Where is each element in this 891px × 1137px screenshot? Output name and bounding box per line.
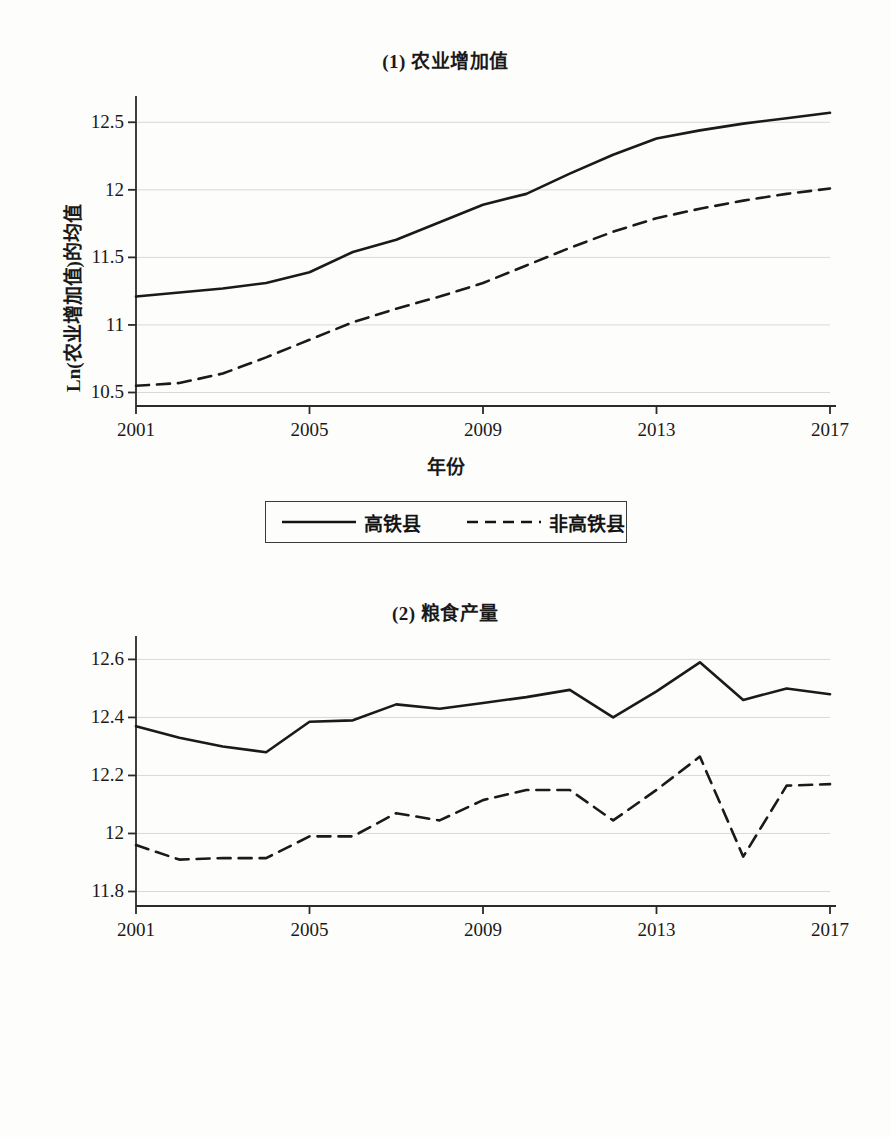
svg-text:12.6: 12.6 — [91, 648, 124, 669]
legend-dashed-line-icon — [465, 515, 543, 529]
panel-2-title: (2) 粮食产量 — [0, 598, 891, 625]
legend-entry-solid: 高铁县 — [280, 502, 421, 542]
panel-2-plot-area: 11.81212.212.412.620012005200920132017 — [0, 628, 891, 938]
panel-1-y-axis-label: Ln(农业增加值)的均值 — [58, 204, 85, 392]
figure-page: (1) 农业增加值 10.51111.51212.520012005200920… — [0, 0, 891, 1137]
svg-text:2009: 2009 — [464, 419, 502, 440]
svg-text:2001: 2001 — [117, 919, 155, 938]
panel-1-plot-area: 10.51111.51212.520012005200920132017 — [0, 80, 891, 440]
svg-text:2005: 2005 — [291, 919, 329, 938]
svg-text:11.8: 11.8 — [91, 880, 124, 901]
panel-1-svg: 10.51111.51212.520012005200920132017 — [0, 80, 891, 440]
legend-entry-dashed: 非高铁县 — [465, 502, 625, 542]
svg-text:12.2: 12.2 — [91, 764, 124, 785]
svg-text:12.5: 12.5 — [91, 111, 124, 132]
legend-solid-label: 高铁县 — [364, 509, 421, 536]
panel-1-legend: 高铁县 非高铁县 — [265, 501, 627, 543]
svg-text:2017: 2017 — [811, 419, 849, 440]
svg-text:2009: 2009 — [464, 919, 502, 938]
svg-text:2005: 2005 — [291, 419, 329, 440]
chart-panel-1: (1) 农业增加值 10.51111.51212.520012005200920… — [0, 0, 891, 568]
panel-1-title: (1) 农业增加值 — [0, 46, 891, 73]
svg-text:10.5: 10.5 — [91, 381, 124, 402]
svg-text:2013: 2013 — [638, 419, 676, 440]
panel-2-svg: 11.81212.212.412.620012005200920132017 — [0, 628, 891, 938]
svg-text:12: 12 — [105, 822, 124, 843]
svg-text:2017: 2017 — [811, 919, 849, 938]
chart-panel-2: (2) 粮食产量 11.81212.212.412.62001200520092… — [0, 568, 891, 1137]
svg-text:2013: 2013 — [638, 919, 676, 938]
legend-dashed-label: 非高铁县 — [549, 509, 625, 536]
svg-text:2001: 2001 — [117, 419, 155, 440]
legend-solid-line-icon — [280, 515, 358, 529]
svg-text:11.5: 11.5 — [91, 246, 124, 267]
svg-text:12: 12 — [105, 179, 124, 200]
panel-1-x-axis-label: 年份 — [0, 452, 891, 479]
svg-text:12.4: 12.4 — [91, 706, 125, 727]
svg-text:11: 11 — [106, 314, 124, 335]
